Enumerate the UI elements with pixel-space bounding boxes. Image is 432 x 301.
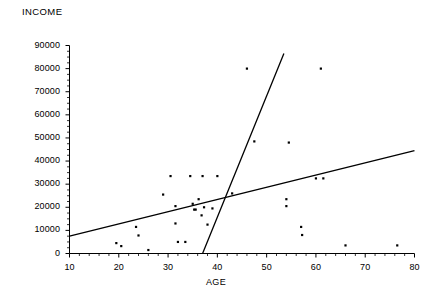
x-axis-tick-label: 70 [350, 262, 380, 272]
steep-regression-line [203, 54, 284, 254]
x-axis-tick-label: 20 [104, 262, 134, 272]
data-point[interactable] [174, 222, 176, 224]
data-point[interactable] [189, 175, 191, 177]
y-axis-tick-label: 30000 [8, 178, 60, 188]
data-point[interactable] [137, 234, 139, 236]
data-point[interactable] [200, 214, 202, 216]
data-point[interactable] [115, 242, 117, 244]
x-axis-tick-label: 30 [153, 262, 183, 272]
data-point[interactable] [147, 249, 149, 251]
data-point[interactable] [206, 224, 208, 226]
data-point[interactable] [198, 198, 200, 200]
y-axis-tick-label: 40000 [8, 155, 60, 165]
shallow-regression-line [70, 151, 415, 237]
data-point[interactable] [216, 175, 218, 177]
y-axis-tick-label: 90000 [8, 40, 60, 50]
data-point[interactable] [301, 234, 303, 236]
data-point[interactable] [396, 244, 398, 246]
data-point[interactable] [285, 205, 287, 207]
data-point[interactable] [322, 177, 324, 179]
x-axis-tick-label: 60 [301, 262, 331, 272]
y-axis-tick-label: 60000 [8, 109, 60, 119]
scatter-plot: INCOME AGE 01000020000300004000050000600… [0, 0, 432, 301]
data-point[interactable] [201, 175, 203, 177]
data-point[interactable] [135, 226, 137, 228]
data-point[interactable] [320, 68, 322, 70]
y-axis-tick-label: 0 [8, 248, 60, 258]
y-axis-tick-label: 10000 [8, 224, 60, 234]
data-point[interactable] [231, 192, 233, 194]
data-point[interactable] [169, 175, 171, 177]
data-point[interactable] [177, 241, 179, 243]
x-axis-tick-label: 80 [400, 262, 430, 272]
data-point[interactable] [253, 140, 255, 142]
data-point[interactable] [211, 207, 213, 209]
data-point[interactable] [300, 226, 302, 228]
y-axis-tick-label: 50000 [8, 132, 60, 142]
plot-canvas [0, 0, 432, 301]
data-point[interactable] [195, 208, 197, 210]
y-axis-tick-label: 80000 [8, 63, 60, 73]
data-point[interactable] [162, 193, 164, 195]
x-axis-tick-label: 50 [252, 262, 282, 272]
data-point[interactable] [174, 205, 176, 207]
data-point[interactable] [344, 244, 346, 246]
data-point[interactable] [246, 68, 248, 70]
data-point[interactable] [288, 141, 290, 143]
x-axis-tick-label: 40 [202, 262, 232, 272]
data-point[interactable] [192, 203, 194, 205]
data-point[interactable] [120, 245, 122, 247]
data-point[interactable] [285, 198, 287, 200]
data-point[interactable] [203, 206, 205, 208]
y-axis-tick-label: 70000 [8, 86, 60, 96]
x-axis-tick-label: 10 [55, 262, 85, 272]
data-point[interactable] [315, 177, 317, 179]
y-axis-tick-label: 20000 [8, 201, 60, 211]
data-point[interactable] [184, 241, 186, 243]
